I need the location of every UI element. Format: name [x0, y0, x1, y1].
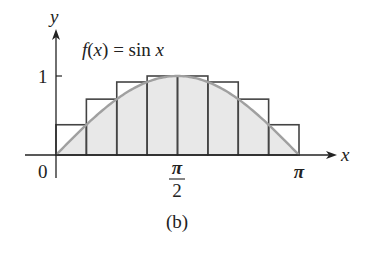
- x-axis-label: x: [340, 144, 350, 165]
- y-tick-label-1: 1: [38, 66, 48, 87]
- x-tick-label-pi-half-numerator: π: [172, 157, 183, 178]
- x-tick-label-0: 0: [38, 161, 48, 182]
- x-tick-label-pi: π: [294, 161, 305, 182]
- riemann-sum-diagram: y x 1 0 π 2 π f(x) = sin x (b): [0, 0, 373, 254]
- figure-caption: (b): [166, 211, 188, 233]
- y-axis-label: y: [48, 6, 59, 27]
- x-tick-label-pi-half-denominator: 2: [172, 180, 182, 201]
- function-label: f(x) = sin x: [82, 39, 165, 61]
